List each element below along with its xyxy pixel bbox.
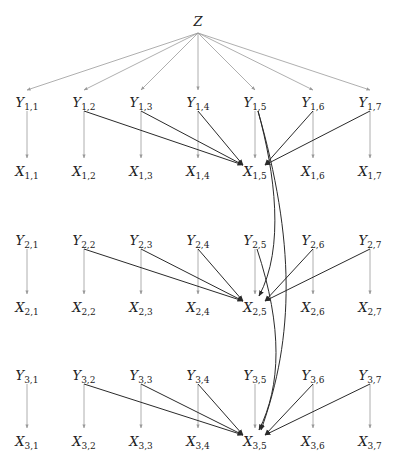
node-x-3-6: X3,6 xyxy=(300,434,325,451)
node-x-2-3: X2,3 xyxy=(128,300,153,317)
node-y-1-2: Y1,2 xyxy=(73,95,96,112)
node-x-3-4: X3,4 xyxy=(185,434,210,451)
node-x-2-7: X2,7 xyxy=(357,300,382,317)
node-y-2-2: Y2,2 xyxy=(73,233,96,250)
edge-z-to-y1-5 xyxy=(198,33,255,90)
edge-to-target-2-7 xyxy=(265,249,370,301)
node-x-3-5: X3,5 xyxy=(242,434,267,451)
edge-z-to-y1-3 xyxy=(141,33,198,90)
node-y-1-7: Y1,7 xyxy=(359,95,382,112)
edge-to-target-1-7 xyxy=(265,111,370,165)
node-y-3-1: Y3,1 xyxy=(16,368,39,385)
node-y-3-3: Y3,3 xyxy=(130,368,153,385)
node-y-2-5: Y2,5 xyxy=(244,233,267,250)
node-x-3-7: X3,7 xyxy=(357,434,382,451)
node-y-3-2: Y3,2 xyxy=(73,368,96,385)
edge-z-to-y1-2 xyxy=(84,33,198,90)
node-y-1-3: Y1,3 xyxy=(130,95,153,112)
edge-to-target-3-7 xyxy=(265,384,370,435)
node-x-3-2: X3,2 xyxy=(71,434,96,451)
node-y-2-1: Y2,1 xyxy=(16,233,39,250)
node-y-2-7: Y2,7 xyxy=(359,233,382,250)
node-x-1-7: X1,7 xyxy=(357,164,382,181)
node-x-2-6: X2,6 xyxy=(300,300,325,317)
node-x-1-6: X1,6 xyxy=(300,164,325,181)
edge-to-target-1-2 xyxy=(84,111,243,165)
node-x-3-3: X3,3 xyxy=(128,434,153,451)
node-z: Z xyxy=(192,14,203,29)
node-y-3-5: Y3,5 xyxy=(244,368,267,385)
edge-z-to-y1-7 xyxy=(198,33,370,90)
node-x-1-3: X1,3 xyxy=(128,164,153,181)
edge-to-target-3-2 xyxy=(84,384,243,435)
node-x-2-4: X2,4 xyxy=(185,300,210,317)
node-y-3-4: Y3,4 xyxy=(187,368,210,385)
edge-y25-to-x35 xyxy=(257,249,276,430)
node-y-1-5: Y1,5 xyxy=(244,95,267,112)
node-x-2-5: X2,5 xyxy=(242,300,267,317)
dark-edges xyxy=(84,111,370,435)
node-y-1-1: Y1,1 xyxy=(16,95,39,112)
edge-to-target-3-3 xyxy=(141,384,243,435)
node-x-1-2: X1,2 xyxy=(71,164,96,181)
node-y-3-7: Y3,7 xyxy=(359,368,382,385)
edge-y15-to-x25 xyxy=(258,111,275,296)
node-y-1-6: Y1,6 xyxy=(302,95,325,112)
edge-z-to-y1-1 xyxy=(27,33,198,90)
node-x-1-4: X1,4 xyxy=(185,164,210,181)
node-y-1-4: Y1,4 xyxy=(187,95,210,112)
edge-to-target-2-2 xyxy=(84,249,243,301)
node-x-3-1: X3,1 xyxy=(14,434,39,451)
edge-to-target-1-3 xyxy=(141,111,243,165)
node-x-2-2: X2,2 xyxy=(71,300,96,317)
edge-to-target-1-6 xyxy=(265,111,313,165)
node-y-3-6: Y3,6 xyxy=(302,368,325,385)
node-y-2-3: Y2,3 xyxy=(130,233,153,250)
edge-z-to-y1-6 xyxy=(198,33,313,90)
node-y-2-4: Y2,4 xyxy=(187,233,210,250)
node-x-1-1: X1,1 xyxy=(14,164,39,181)
edge-to-target-2-3 xyxy=(141,249,243,301)
node-x-2-1: X2,1 xyxy=(14,300,39,317)
causal-graph: ZY1,1X1,1Y1,2X1,2Y1,3X1,3Y1,4X1,4Y1,5X1,… xyxy=(0,0,402,467)
node-y-2-6: Y2,6 xyxy=(302,233,325,250)
node-x-1-5: X1,5 xyxy=(242,164,267,181)
